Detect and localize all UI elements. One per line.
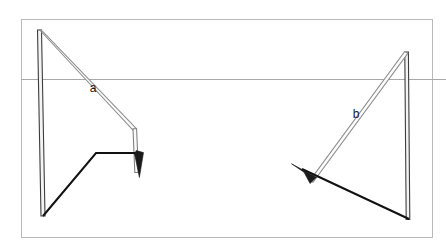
figure-canvas: a b [0,0,446,251]
label-b: b [353,107,360,121]
page-background [0,0,446,251]
right-vertical-rod-body [405,52,410,220]
diagram-svg: a b [0,0,446,251]
label-a: a [90,81,97,95]
right-vertical-rod [405,52,410,220]
